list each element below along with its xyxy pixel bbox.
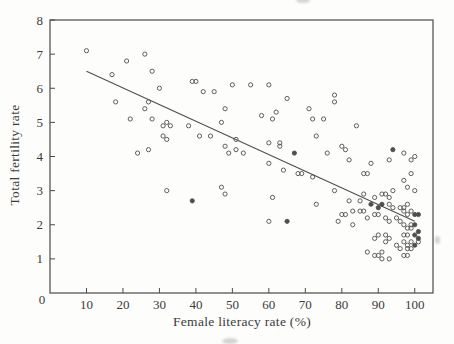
- data-point: [165, 189, 169, 193]
- x-tick-label: 100: [405, 297, 425, 312]
- y-tick-label: 8: [37, 13, 44, 28]
- data-point: [267, 83, 271, 87]
- data-point: [402, 178, 406, 182]
- scatter-plot-figure: 102030405060708090100123456780 Female li…: [0, 0, 454, 344]
- data-point: [128, 117, 132, 121]
- y-tick-label: 5: [37, 115, 44, 130]
- data-point: [143, 52, 147, 56]
- data-point: [114, 100, 118, 104]
- data-point: [267, 219, 271, 223]
- data-point: [409, 240, 413, 244]
- data-point: [146, 100, 150, 104]
- data-point: [387, 257, 391, 261]
- data-point: [343, 148, 347, 152]
- data-point: [321, 117, 325, 121]
- data-point: [402, 151, 406, 155]
- data-point-emphasized: [292, 151, 296, 155]
- y-tick-label: 4: [37, 149, 44, 164]
- data-point: [143, 107, 147, 111]
- data-point: [402, 223, 406, 227]
- data-point: [197, 134, 201, 138]
- data-point: [274, 110, 278, 114]
- data-point: [168, 124, 172, 128]
- data-point: [347, 158, 351, 162]
- data-point: [285, 96, 289, 100]
- data-point: [270, 117, 274, 121]
- data-point: [201, 90, 205, 94]
- y-tick-label: 1: [37, 251, 44, 266]
- data-point: [409, 171, 413, 175]
- data-point: [387, 202, 391, 206]
- data-point: [365, 250, 369, 254]
- data-point: [391, 206, 395, 210]
- data-point: [365, 216, 369, 220]
- y-tick-label: 6: [37, 81, 44, 96]
- data-point: [358, 199, 362, 203]
- data-point-emphasized: [376, 206, 380, 210]
- data-point: [223, 144, 227, 148]
- data-point: [281, 168, 285, 172]
- x-tick-label: 80: [335, 297, 348, 312]
- data-point: [387, 158, 391, 162]
- y-axis-title: Total fertility rate: [7, 104, 23, 205]
- data-point-emphasized: [413, 223, 417, 227]
- data-point: [311, 175, 315, 179]
- data-point-emphasized: [380, 202, 384, 206]
- data-point: [413, 154, 417, 158]
- data-point: [135, 151, 139, 155]
- data-point: [383, 216, 387, 220]
- data-point: [394, 216, 398, 220]
- data-point: [223, 192, 227, 196]
- x-axis-title: Female literacy rate (%): [173, 314, 311, 330]
- data-point: [227, 151, 231, 155]
- data-point: [405, 202, 409, 206]
- x-tick-label: 50: [226, 297, 239, 312]
- data-point: [150, 117, 154, 121]
- data-point: [332, 100, 336, 104]
- x-tick-label: 40: [189, 297, 202, 312]
- data-point: [311, 117, 315, 121]
- data-point: [351, 223, 355, 227]
- data-point: [405, 212, 409, 216]
- data-point: [354, 124, 358, 128]
- x-tick-label: 70: [299, 297, 312, 312]
- data-point: [387, 219, 391, 223]
- data-point: [307, 107, 311, 111]
- data-point-emphasized: [413, 243, 417, 247]
- x-tick-label: 10: [80, 297, 93, 312]
- data-point: [165, 120, 169, 124]
- x-tick-label: 90: [372, 297, 385, 312]
- origin-tick-label: 0: [39, 292, 46, 307]
- data-point: [267, 161, 271, 165]
- data-point: [161, 134, 165, 138]
- trend-line: [86, 71, 414, 221]
- data-point: [187, 124, 191, 128]
- data-point: [208, 134, 212, 138]
- data-point: [373, 195, 377, 199]
- data-point-emphasized: [285, 219, 289, 223]
- data-point: [340, 144, 344, 148]
- data-point: [332, 189, 336, 193]
- data-point: [391, 189, 395, 193]
- data-point-emphasized: [416, 212, 420, 216]
- data-point: [405, 185, 409, 189]
- data-point: [267, 141, 271, 145]
- data-point: [146, 148, 150, 152]
- data-point: [212, 90, 216, 94]
- data-point: [241, 151, 245, 155]
- data-point: [161, 124, 165, 128]
- data-point: [110, 73, 114, 77]
- plot-canvas: 102030405060708090100123456780: [0, 0, 454, 344]
- data-point: [230, 83, 234, 87]
- data-point: [387, 195, 391, 199]
- data-point: [413, 189, 417, 193]
- data-point: [332, 93, 336, 97]
- data-point: [219, 185, 223, 189]
- data-point: [336, 219, 340, 223]
- x-tick-label: 20: [116, 297, 129, 312]
- data-point: [394, 243, 398, 247]
- data-point: [409, 209, 413, 213]
- x-tick-label: 60: [262, 297, 275, 312]
- data-point: [314, 202, 318, 206]
- data-point: [325, 151, 329, 155]
